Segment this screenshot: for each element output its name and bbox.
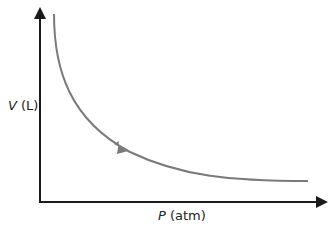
direction-arrow-icon [114,141,128,154]
x-axis [39,196,328,208]
y-axis-unit: (L) [21,98,38,113]
y-axis-label: V (L) [8,98,38,113]
pv-plot [0,0,335,232]
isotherm-curve [54,14,308,181]
x-axis-variable: P [158,208,166,223]
y-axis-variable: V [8,98,17,113]
x-axis-label: P (atm) [158,208,206,223]
x-axis-arrow-icon [316,196,328,208]
x-axis-unit: (atm) [170,208,206,223]
y-axis-arrow-icon [34,7,46,19]
pv-diagram: V (L) P (atm) [0,0,335,232]
